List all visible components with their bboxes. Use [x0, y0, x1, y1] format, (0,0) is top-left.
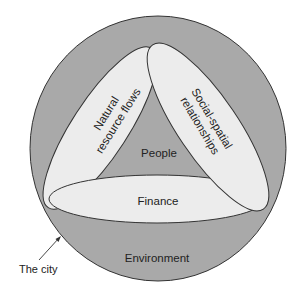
city-pointer-arrow-icon	[39, 236, 61, 260]
environment-label: Environment	[125, 252, 190, 264]
the-city-label: The city	[19, 263, 58, 275]
city-diagram: Natural resource flows Social-spatial re…	[0, 0, 303, 295]
people-label: People	[141, 147, 177, 159]
finance-label: Finance	[138, 195, 179, 207]
